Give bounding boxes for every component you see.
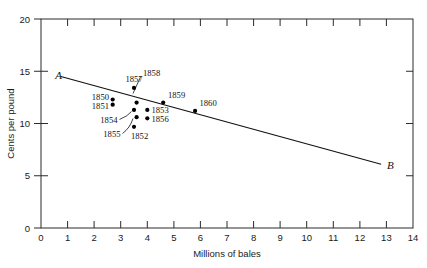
- data-point-1860: [193, 109, 197, 113]
- data-label-1852: 1852: [131, 131, 148, 141]
- y-tick-15: 15: [19, 66, 30, 77]
- x-tick-0: 0: [38, 232, 43, 243]
- y-tick-10: 10: [19, 118, 30, 129]
- x-tick-7: 7: [224, 232, 229, 243]
- data-point-1852: [132, 125, 136, 129]
- right-axis-ticks: [406, 71, 413, 176]
- x-tick-6: 6: [198, 232, 203, 243]
- scatter-plot-figure: 20 15 10 5 0 0 1 2 3 4 5 6 7 8 9 10 11 1…: [0, 0, 427, 268]
- top-axis-ticks: [68, 19, 387, 26]
- data-label-1856: 1856: [152, 114, 170, 124]
- data-label-1855: 1855: [103, 129, 120, 139]
- left-axis-ticks: [34, 19, 41, 228]
- data-label-1851: 1851: [92, 101, 109, 111]
- data-point-1858: [135, 101, 139, 105]
- x-tick-11: 11: [328, 232, 338, 243]
- x-tick-14: 14: [408, 232, 419, 243]
- bottom-axis-ticks: [68, 221, 387, 228]
- chart-canvas: 20 15 10 5 0 0 1 2 3 4 5 6 7 8 9 10 11 1…: [0, 0, 427, 268]
- y-tick-0: 0: [25, 223, 30, 234]
- data-label-1860: 1860: [200, 98, 217, 108]
- x-tick-1: 1: [65, 232, 70, 243]
- data-point-1854: [132, 108, 136, 112]
- data-point-1856: [145, 116, 149, 120]
- data-label-1854: 1854: [100, 115, 118, 125]
- data-point-1850: [111, 97, 115, 101]
- y-tick-20: 20: [19, 14, 30, 25]
- data-point-1853: [145, 108, 149, 112]
- x-axis-title: Millions of bales: [193, 248, 261, 259]
- x-tick-2: 2: [91, 232, 96, 243]
- data-label-1858: 1858: [143, 68, 160, 78]
- x-tick-9: 9: [277, 232, 282, 243]
- data-label-1859: 1859: [168, 90, 185, 100]
- data-point-1855: [135, 115, 139, 119]
- y-axis-title: Cents per pound: [5, 88, 16, 158]
- trend-start-label-a: A: [54, 69, 62, 81]
- data-label-1857: 1857: [125, 74, 143, 84]
- x-tick-13: 13: [381, 232, 392, 243]
- left-axis-inner-ticks: [41, 71, 48, 176]
- data-point-1851: [111, 103, 115, 107]
- leader-line-1854: [120, 112, 132, 120]
- trend-end-label-b: B: [387, 159, 394, 171]
- x-tick-12: 12: [355, 232, 366, 243]
- x-tick-4: 4: [145, 232, 150, 243]
- x-tick-10: 10: [301, 232, 312, 243]
- data-point-1857: [132, 86, 136, 90]
- x-tick-8: 8: [251, 232, 256, 243]
- x-tick-5: 5: [171, 232, 176, 243]
- x-tick-3: 3: [118, 232, 123, 243]
- plot-frame: [41, 19, 413, 228]
- y-tick-5: 5: [25, 170, 30, 181]
